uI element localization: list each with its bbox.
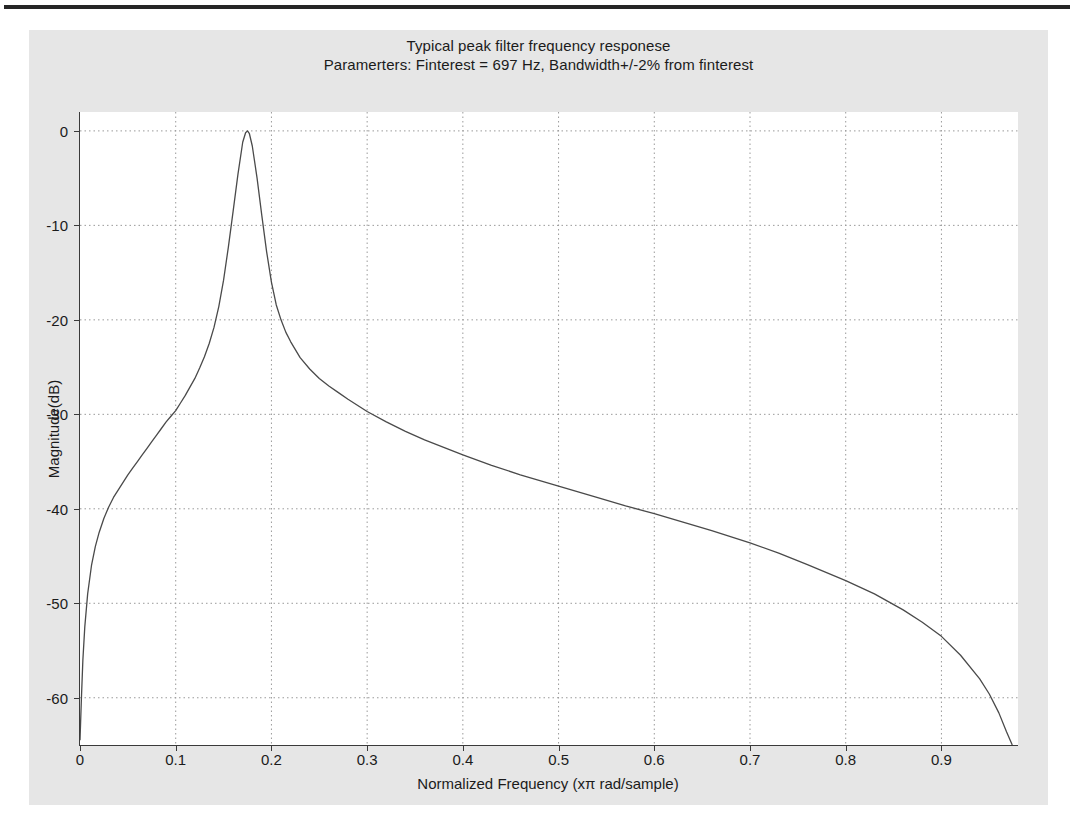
y-tick-label: -40 <box>46 500 68 517</box>
y-tick-mark <box>74 225 80 226</box>
y-tick-mark <box>74 698 80 699</box>
figure-title: Typical peak filter frequency responese <box>29 36 1048 55</box>
y-axis-label: Magnitude(dB) <box>43 112 63 745</box>
x-tick-label: 0.5 <box>548 751 569 768</box>
y-tick-mark <box>74 320 80 321</box>
x-tick-label: 0.7 <box>740 751 761 768</box>
y-tick-mark <box>74 603 80 604</box>
x-axis-label: Normalized Frequency (xπ rad/sample) <box>79 775 1017 792</box>
y-tick-label: -20 <box>46 311 68 328</box>
x-tick-label: 0.4 <box>452 751 473 768</box>
y-tick-mark <box>74 414 80 415</box>
y-tick-label: -10 <box>46 217 68 234</box>
figure-panel: Typical peak filter frequency responese … <box>29 30 1048 805</box>
x-tick-label: 0.6 <box>644 751 665 768</box>
x-tick-label: 0.8 <box>835 751 856 768</box>
plot-axes: 00.10.20.30.40.50.60.70.80.9 0-10-20-30-… <box>79 112 1018 746</box>
x-tick-label: 0.1 <box>165 751 186 768</box>
y-tick-mark <box>74 131 80 132</box>
page-top-rule <box>4 5 1070 9</box>
y-tick-label: -50 <box>46 595 68 612</box>
x-tick-label: 0.3 <box>357 751 378 768</box>
x-tick-label: 0.2 <box>261 751 282 768</box>
figure-title-block: Typical peak filter frequency responese … <box>29 36 1048 74</box>
figure-subtitle: Paramerters: Finterest = 697 Hz, Bandwid… <box>29 55 1048 74</box>
x-tick-label: 0 <box>76 751 84 768</box>
y-axis-label-text: Magnitude(dB) <box>45 379 62 477</box>
series-lines <box>80 131 1012 745</box>
y-tick-mark <box>74 509 80 510</box>
series-line <box>80 131 1012 745</box>
y-tick-label: -30 <box>46 406 68 423</box>
y-tick-label: 0 <box>60 122 68 139</box>
x-tick-label: 0.9 <box>931 751 952 768</box>
grid-lines <box>80 112 1018 745</box>
plot-svg <box>80 112 1018 745</box>
y-tick-label: -60 <box>46 689 68 706</box>
